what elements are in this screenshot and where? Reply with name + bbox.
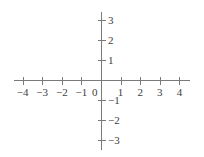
x-axis-tick-label: −1 (69, 87, 93, 98)
x-axis-tick-label: 4 (167, 87, 191, 98)
y-axis-tick-label: 3 (108, 15, 114, 26)
coordinate-plane: −4−3−2−11234321−1−2−30 (0, 0, 204, 157)
y-axis-tick-label: −2 (108, 115, 120, 126)
y-axis-tick-label: 2 (108, 35, 114, 46)
y-axis-tick-label: 1 (108, 55, 114, 66)
origin-label: 0 (92, 87, 98, 98)
axes-svg (0, 0, 204, 157)
y-axis-tick-label: −3 (108, 135, 120, 146)
y-axis-tick-label: −1 (108, 95, 120, 106)
